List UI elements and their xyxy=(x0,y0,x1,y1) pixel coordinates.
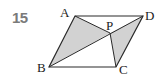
parallelogram-diagram: A D P B C xyxy=(0,0,163,79)
label-b: B xyxy=(37,60,46,75)
shaded-triangle-abp xyxy=(49,16,110,67)
label-p: P xyxy=(106,18,113,33)
label-c: C xyxy=(119,62,128,77)
label-d: D xyxy=(145,8,154,23)
label-a: A xyxy=(60,5,70,20)
